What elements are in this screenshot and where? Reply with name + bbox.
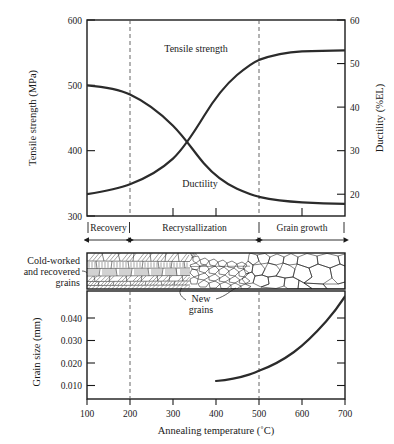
ductility-axis-label: Ductility (%EL) bbox=[374, 83, 386, 152]
new-grains-leader-left bbox=[180, 288, 186, 300]
right-tick-20: 20 bbox=[350, 190, 360, 200]
region-label-grain-growth: Grain growth bbox=[277, 223, 328, 233]
cold-worked-label-line3: grains bbox=[56, 277, 81, 288]
right-tick-30: 30 bbox=[350, 146, 360, 156]
x-tick-500: 500 bbox=[252, 409, 267, 419]
left-tick-300: 300 bbox=[68, 212, 83, 222]
grain-size-axis-ticks bbox=[87, 318, 345, 386]
left-axis-ticks bbox=[87, 20, 95, 216]
cold-worked-label-line1: Cold-worked bbox=[27, 255, 80, 266]
x-tick-600: 600 bbox=[295, 409, 310, 419]
grain-tick-0030: 0.030 bbox=[61, 336, 83, 346]
grain-size-curve bbox=[216, 296, 345, 381]
cold-worked-leader-line bbox=[82, 271, 87, 273]
left-tick-500: 500 bbox=[68, 81, 83, 91]
right-tick-50: 50 bbox=[350, 59, 360, 69]
grain-tick-0040: 0.040 bbox=[61, 314, 83, 324]
x-tick-100: 100 bbox=[80, 409, 95, 419]
property-panel-x-ticks bbox=[173, 208, 302, 216]
microstructure-band: Cold-worked and recovered grains New gra… bbox=[24, 253, 345, 315]
cold-worked-label-line2: and recovered bbox=[24, 266, 80, 277]
grain-size-plot-frame bbox=[87, 291, 345, 399]
grain-tick-0010: 0.010 bbox=[61, 381, 83, 391]
x-tick-700: 700 bbox=[338, 409, 353, 419]
tensile-strength-curve-label: Tensile strength bbox=[164, 43, 227, 54]
property-panel: 300 400 500 600 Tensile strength (MPa) 2… bbox=[27, 16, 386, 222]
x-tick-300: 300 bbox=[166, 409, 181, 419]
x-tick-400: 400 bbox=[209, 409, 224, 419]
right-tick-40: 40 bbox=[350, 103, 360, 113]
x-tick-200: 200 bbox=[123, 409, 138, 419]
annealing-figure: 300 400 500 600 Tensile strength (MPa) 2… bbox=[0, 0, 394, 444]
figure-canvas: 300 400 500 600 Tensile strength (MPa) 2… bbox=[0, 0, 394, 444]
region-bar: Recovery Recrystallization Grain growth bbox=[88, 222, 344, 240]
grain-tick-0020: 0.020 bbox=[61, 359, 83, 369]
tensile-strength-axis-label: Tensile strength (MPa) bbox=[27, 69, 39, 166]
microstructure-frame bbox=[87, 253, 345, 289]
region-label-recovery: Recovery bbox=[90, 223, 127, 233]
x-axis-ticks bbox=[87, 399, 345, 405]
region-label-recrystallization: Recrystallization bbox=[162, 223, 227, 233]
new-grains-label-line2: grains bbox=[189, 304, 214, 315]
grain-structure-drawing bbox=[87, 253, 345, 289]
right-tick-60: 60 bbox=[350, 16, 360, 26]
annealing-temperature-axis-label: Annealing temperature (˚C) bbox=[158, 425, 275, 437]
grain-size-axis-label: Grain size (mm) bbox=[31, 317, 43, 386]
ductility-curve-label: Ductility bbox=[182, 178, 218, 189]
right-axis-ticks bbox=[337, 20, 345, 194]
left-tick-600: 600 bbox=[68, 16, 83, 26]
left-tick-400: 400 bbox=[68, 146, 83, 156]
new-grains-label-line1: New bbox=[192, 293, 212, 304]
ductility-curve bbox=[87, 50, 345, 194]
